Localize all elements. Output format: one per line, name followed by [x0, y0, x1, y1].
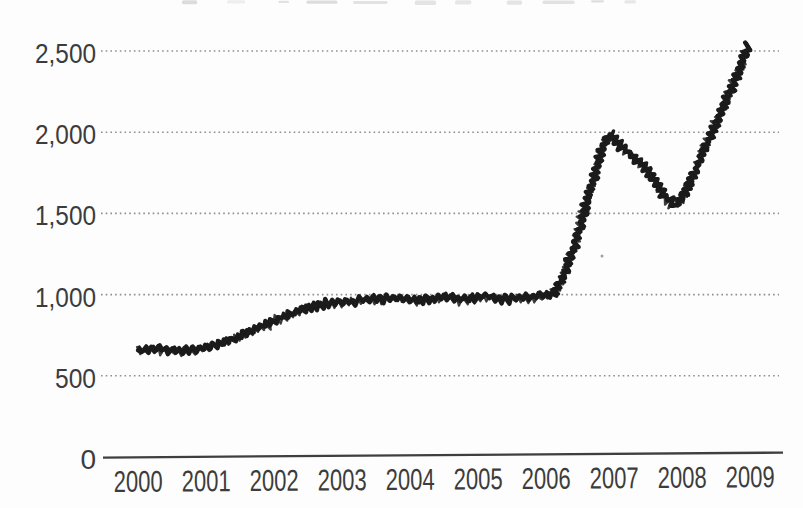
scan-speck: [601, 255, 604, 258]
y-axis-tick-label: 1,000: [35, 282, 96, 313]
y-axis-tick-label: 2,500: [35, 38, 96, 69]
x-axis-tick-label: 2004: [386, 463, 435, 496]
x-axis: 2000200120022003200420052006200720082009: [103, 453, 783, 498]
x-axis-tick-label: 2007: [590, 461, 639, 494]
x-axis-tick-label: 2005: [454, 462, 503, 495]
x-axis-tick-label: 2003: [318, 463, 367, 496]
y-axis-labels: 05001,0001,5002,0002,500: [35, 38, 96, 475]
chart: 05001,0001,5002,0002,5002000200120022003…: [0, 0, 803, 508]
title-remnant-mark: [182, 0, 197, 4]
x-axis-tick-label: 2000: [114, 465, 163, 498]
title-remnant-mark: [353, 1, 388, 4]
data-line-stroke: [138, 43, 750, 355]
data-line-stroke: [137, 45, 749, 356]
cropped-title-remnant: [182, 0, 636, 5]
x-axis-tick-label: 2008: [658, 461, 707, 494]
title-remnant-mark: [415, 1, 436, 6]
x-axis-line: [103, 453, 783, 458]
x-axis-tick-label: 2001: [182, 464, 231, 497]
title-remnant-mark: [624, 0, 636, 3]
title-remnant-mark: [543, 1, 575, 4]
y-axis-tick-label: 0: [80, 444, 96, 475]
y-axis-tick-label: 500: [55, 363, 96, 394]
title-remnant-mark: [591, 0, 604, 2]
data-line: [137, 43, 750, 357]
title-remnant-mark: [306, 1, 337, 4]
line-chart-canvas: 05001,0001,5002,0002,5002000200120022003…: [0, 0, 803, 508]
gridlines: [101, 51, 779, 376]
y-axis-tick-label: 1,500: [35, 200, 96, 231]
y-axis-tick-label: 2,000: [35, 119, 96, 150]
title-remnant-mark: [507, 0, 522, 4]
title-remnant-mark: [455, 0, 471, 4]
x-axis-tick-label: 2002: [250, 464, 299, 497]
x-axis-tick-label: 2006: [522, 462, 571, 495]
title-remnant-mark: [227, 0, 245, 3]
title-remnant-mark: [278, 1, 289, 3]
x-axis-tick-label: 2009: [726, 460, 775, 493]
